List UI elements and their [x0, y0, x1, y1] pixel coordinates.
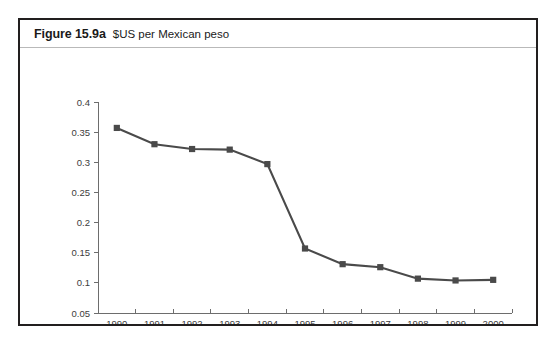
- data-point-marker: [340, 261, 346, 267]
- y-axis-tick-label: 0.2: [77, 217, 90, 228]
- data-point-marker: [264, 161, 270, 167]
- x-axis-tick-label: 1999: [445, 318, 466, 324]
- data-point-marker: [114, 125, 120, 131]
- x-axis-tick-label: 2000: [483, 318, 504, 324]
- x-axis-tick-label: 1994: [257, 318, 278, 324]
- y-axis-tick-label: 0.35: [72, 127, 91, 138]
- x-axis-tick-label: 1990: [106, 318, 127, 324]
- y-axis-tick-label: 0.1: [77, 277, 90, 288]
- y-axis: 0.050.10.150.20.250.30.350.4: [72, 97, 99, 319]
- x-axis-tick-label: 1996: [332, 318, 353, 324]
- data-point-marker: [452, 277, 458, 283]
- y-axis-tick-label: 0.3: [77, 157, 90, 168]
- data-point-marker: [415, 276, 421, 282]
- data-point-marker: [227, 147, 233, 153]
- y-axis-tick-label: 0.4: [77, 97, 90, 108]
- line-chart: 0.050.10.150.20.250.30.350.4 19901991199…: [20, 48, 536, 324]
- x-axis-tick-label: 1997: [370, 318, 391, 324]
- y-axis-tick-label: 0.15: [72, 247, 91, 258]
- figure-caption-label: $US per Mexican peso: [113, 28, 229, 40]
- data-point-marker: [189, 146, 195, 152]
- x-axis-tick-label: 1992: [182, 318, 203, 324]
- x-axis-tick-label: 1993: [219, 318, 240, 324]
- data-point-marker: [490, 277, 496, 283]
- data-point-marker: [302, 245, 308, 251]
- figure-header: Figure 15.9a $US per Mexican peso: [20, 20, 536, 48]
- x-axis-tick-label: 1991: [144, 318, 165, 324]
- x-axis-tick-label: 1998: [407, 318, 428, 324]
- y-axis-tick-label: 0.25: [72, 187, 91, 198]
- x-axis-tick-label: 1995: [294, 318, 315, 324]
- x-axis: 1990199119921993199419951996199719981999…: [98, 309, 512, 324]
- figure-panel: Figure 15.9a $US per Mexican peso 0.050.…: [18, 18, 538, 326]
- data-point-marker: [377, 264, 383, 270]
- data-point-marker: [151, 141, 157, 147]
- chart-plot-area: 0.050.10.150.20.250.30.350.4 19901991199…: [20, 48, 536, 324]
- y-axis-tick-label: 0.05: [72, 308, 91, 319]
- data-series-usd-per-peso: [114, 125, 497, 284]
- figure-number-label: Figure 15.9a: [34, 27, 106, 41]
